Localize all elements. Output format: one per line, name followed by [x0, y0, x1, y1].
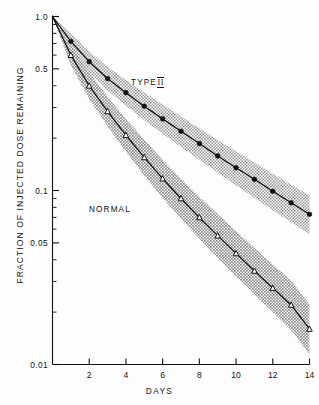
- data-point-marker: [234, 165, 239, 170]
- data-point-marker: [69, 39, 74, 44]
- data-point-marker: [252, 177, 257, 182]
- x-axis-title: DAYS: [0, 386, 319, 396]
- type-ii-roman: II: [157, 77, 164, 88]
- y-tick-label: 0.5: [35, 64, 48, 74]
- x-tick-label: 2: [87, 370, 92, 380]
- x-tick-label: 6: [160, 370, 165, 380]
- y-tick-label: 0.05: [30, 238, 48, 248]
- x-tick-label: 12: [268, 370, 278, 380]
- figure-semilog-clearance-plot: 1.00.50.10.050.012468101214 FRACTION OF …: [0, 0, 319, 405]
- x-tick-label: 14: [305, 370, 315, 380]
- data-point-marker: [87, 59, 92, 64]
- y-tick-label: 0.01: [30, 360, 48, 370]
- data-point-marker: [179, 129, 184, 134]
- normal-label: NORMAL: [89, 205, 131, 214]
- confidence-bands: [53, 17, 310, 355]
- data-point-marker: [289, 200, 294, 205]
- data-point-marker: [197, 141, 202, 146]
- data-point-marker: [142, 104, 147, 109]
- x-tick-label: 4: [124, 370, 129, 380]
- y-tick-label: 1.0: [35, 12, 48, 22]
- type-ii-text: TYPE: [131, 78, 157, 87]
- data-point-marker: [307, 212, 312, 217]
- data-point-marker: [124, 90, 129, 95]
- plot-canvas: 1.00.50.10.050.012468101214: [0, 0, 319, 405]
- data-point-marker: [160, 117, 165, 122]
- data-point-marker: [105, 76, 110, 81]
- type-ii-label: TYPEII: [131, 78, 164, 87]
- x-tick-label: 10: [231, 370, 241, 380]
- y-axis-title: FRACTION OF INJECTED DOSE REMAINING: [15, 15, 25, 335]
- x-tick-label: 8: [197, 370, 202, 380]
- y-tick-label: 0.1: [35, 186, 48, 196]
- data-point-marker: [270, 189, 275, 194]
- data-point-marker: [215, 154, 220, 159]
